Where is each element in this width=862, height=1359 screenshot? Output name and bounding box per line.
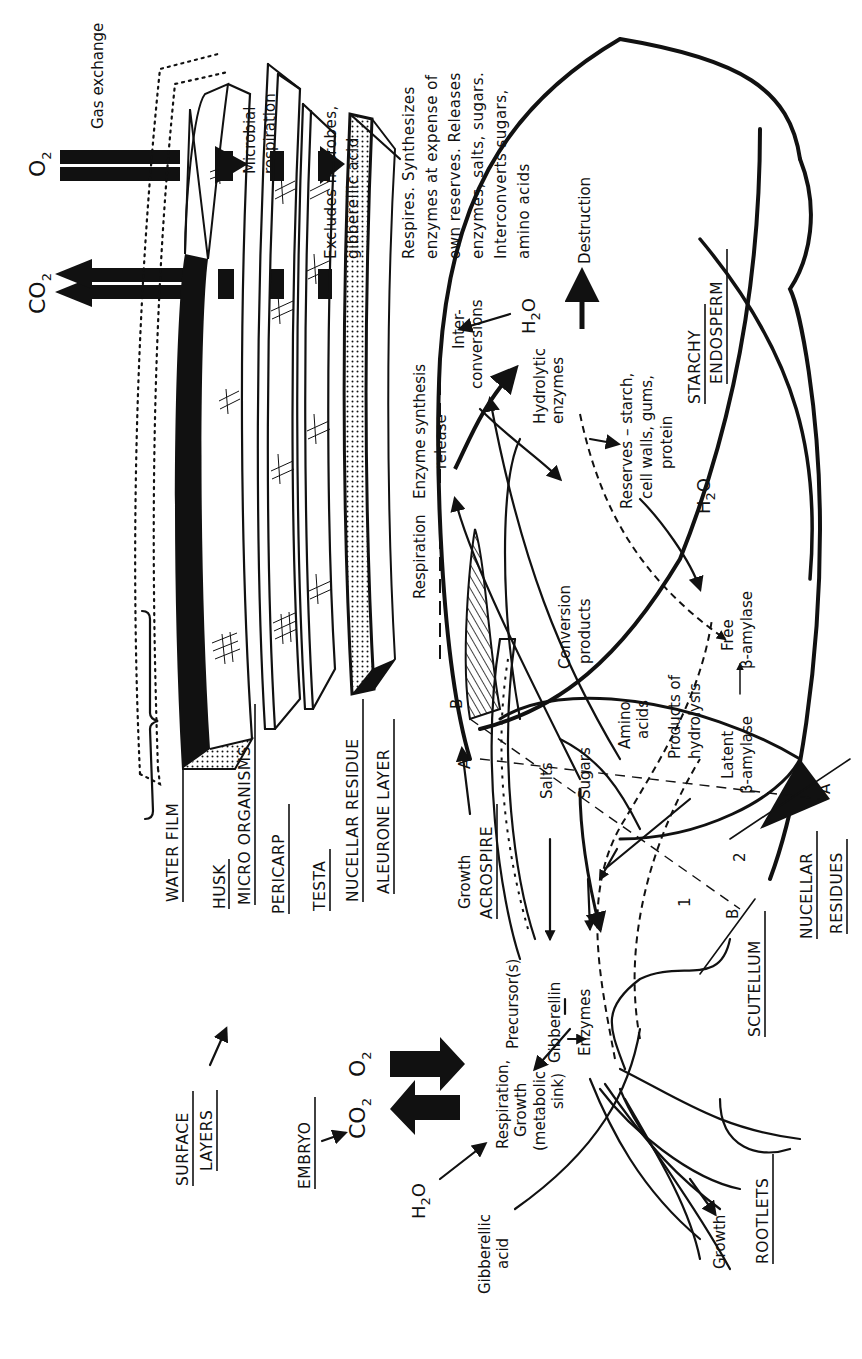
svg-text:(metabolic: (metabolic: [531, 1071, 549, 1151]
svg-text:Growth: Growth: [512, 1083, 530, 1137]
gibberellin-label: Gibberellin: [546, 982, 564, 1063]
svg-text:β-amylase: β-amylase: [738, 716, 756, 794]
o2-embryo-arrow: [390, 1037, 465, 1091]
svg-text:hydrolysis: hydrolysis: [686, 683, 704, 759]
interconversions-label-2: conversions: [468, 299, 486, 389]
label-water-film: WATER FILM: [164, 803, 182, 902]
svg-text:2: 2: [731, 852, 749, 862]
testa-note-text: Excludes microbes, gibberellic acid: [320, 105, 364, 259]
gibberellic-acid-label: Gibberellic acid: [476, 1214, 512, 1294]
label-aleurone-layer: ALEURONE LAYER: [375, 749, 393, 894]
svg-text:Respiration,: Respiration,: [494, 1060, 512, 1149]
hydrolytic-enzymes-label: Hydrolytic enzymes: [531, 348, 567, 424]
precursor-label: Precursor(s): [504, 959, 522, 1049]
rootlets: Growth ROOTLETS: [590, 1069, 800, 1269]
svg-text:Latent: Latent: [719, 731, 737, 779]
svg-text:Hydrolytic: Hydrolytic: [531, 348, 549, 424]
conversion-products-label: Conversion products: [556, 585, 594, 669]
svg-text:O2: O2: [345, 1051, 374, 1077]
label-testa: TESTA: [311, 861, 329, 912]
nucellar-residues-label: NUCELLAR RESIDUES: [798, 831, 847, 939]
label-nucellar-residue: NUCELLAR RESIDUE: [344, 738, 362, 902]
co2-embryo-arrow: [390, 1080, 460, 1135]
h2o-endosperm: H2O: [693, 478, 718, 514]
svg-text:Reserves – starch,: Reserves – starch,: [618, 373, 636, 509]
co2-label: CO2: [25, 273, 54, 314]
nucellar-hatched-region: [466, 529, 500, 719]
svg-text:H2O: H2O: [518, 298, 543, 334]
rootlets-label: ROOTLETS: [754, 1178, 772, 1264]
scutellum-label: SCUTELLUM: [746, 940, 764, 1037]
svg-text:Free: Free: [719, 619, 737, 651]
destruction-label: Destruction: [576, 177, 594, 264]
products-of-hydrolysis-label: Products of hydrolysis: [666, 674, 704, 759]
svg-text:β-amylase: β-amylase: [738, 591, 756, 669]
microbial-respiration-text: Microbial respiration: [240, 93, 280, 174]
diagram-stage: SURFACE LAYERS WATER FILM HUSK MICRO ORG…: [0, 0, 862, 1359]
gas-exchange-label: Gas exchange: [89, 23, 107, 129]
embryo-title: EMBRYO: [296, 1097, 315, 1189]
acrospire-growth-label: Growth: [456, 855, 474, 909]
svg-text:EMBRYO: EMBRYO: [296, 1122, 314, 1189]
label-husk: HUSK: [211, 864, 229, 909]
svg-text:H2O: H2O: [408, 1183, 433, 1219]
svg-text:NUCELLAR: NUCELLAR: [798, 852, 816, 939]
svg-text:Gibberellic: Gibberellic: [476, 1214, 494, 1294]
label-a-bottom: A: [816, 783, 834, 794]
svg-text:products: products: [576, 598, 594, 664]
embryo-gas: CO2 O2: [345, 1051, 374, 1139]
h2o-aleurone: H2O: [518, 298, 543, 334]
latent-beta-amylase-label: Latent β-amylase: [719, 716, 756, 794]
svg-text:SURFACE: SURFACE: [174, 1112, 192, 1186]
svg-text:Products of: Products of: [666, 674, 684, 759]
amino-acids-label-1: Amino: [616, 701, 634, 749]
svg-text:cell walls, gums,: cell walls, gums,: [638, 375, 656, 499]
svg-text:sink): sink): [549, 1073, 567, 1109]
amino-acids-label-2: acids: [634, 700, 652, 739]
starchy-endosperm-title: STARCHY ENDOSPERM: [686, 249, 727, 404]
label-micro-organisms: MICRO ORGANISMS: [236, 746, 254, 905]
reserves-label: Reserves – starch, cell walls, gums, pro…: [618, 373, 676, 509]
svg-text:Conversion: Conversion: [556, 585, 574, 669]
label-a-top: A: [456, 758, 474, 769]
respiration-label: Respiration: [411, 514, 429, 599]
svg-text:RESIDUES: RESIDUES: [828, 852, 846, 934]
svg-text:protein: protein: [658, 416, 676, 469]
label-pericarp: PERICARP: [270, 834, 288, 914]
svg-text:H2O: H2O: [693, 478, 718, 514]
svg-text:Destruction: Destruction: [576, 177, 594, 264]
rootlets-growth-label: Growth: [711, 1215, 729, 1269]
label-b-top: B: [448, 699, 466, 709]
svg-text:LAYERS: LAYERS: [198, 1110, 216, 1171]
svg-text:enzymes: enzymes: [549, 357, 567, 424]
husk-layer: [175, 84, 252, 769]
respiration-growth-label: Respiration, Growth (metabolic sink): [494, 1060, 567, 1151]
aleurone-note-text: Respires. Synthesizes enzymes at expense…: [398, 72, 536, 259]
o2-label: O2: [25, 151, 54, 177]
svg-text:1: 1: [676, 897, 694, 907]
enzyme-synthesis-label: Enzyme synthesis: [411, 364, 429, 499]
h2o-embryo: H2O: [408, 1183, 433, 1219]
surface-arrow: [210, 1029, 226, 1065]
gibberellin-pathway: Precursor(s) Gibberellin Enzymes: [504, 959, 594, 1063]
svg-text:CO2: CO2: [345, 1098, 374, 1139]
acrospire-label: ACROSPIRE: [478, 826, 496, 919]
enzymes-label: Enzymes: [576, 988, 594, 1056]
surface-layers-title: SURFACE LAYERS: [174, 1090, 217, 1186]
label-b-bottom: B: [724, 909, 742, 919]
salts-label: Salts: [538, 762, 556, 799]
svg-text:acid: acid: [494, 1238, 512, 1269]
free-beta-amylase-label: Free β-amylase: [719, 591, 756, 669]
svg-text:STARCHY: STARCHY: [686, 330, 704, 404]
svg-text:ENDOSPERM: ENDOSPERM: [708, 281, 726, 384]
